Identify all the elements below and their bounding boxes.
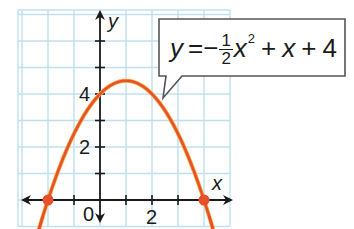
eq-x-linear: x [282, 33, 295, 64]
eq-x: x [234, 33, 247, 64]
eq-equals-minus: =− [188, 33, 218, 64]
intercept-point [199, 195, 210, 206]
intercept-point [43, 195, 54, 206]
eq-y: y [170, 33, 183, 64]
y-axis-label: y [106, 10, 119, 32]
eq-fraction: 1 2 [219, 32, 232, 67]
tick-label-y-4: 4 [79, 83, 90, 105]
equation-label: y =− 1 2 x 2 + x + 4 [170, 26, 337, 70]
tick-label-x-0: 0 [83, 203, 94, 225]
eq-exponent: 2 [248, 31, 255, 46]
tick-label-y-2: 2 [79, 136, 90, 158]
tick-label-x-2: 2 [146, 206, 157, 228]
eq-plus-1: + [261, 33, 276, 64]
eq-plus-2: + [301, 33, 316, 64]
eq-denominator: 2 [221, 50, 230, 67]
eq-constant: 4 [322, 33, 336, 64]
eq-numerator: 1 [219, 32, 232, 50]
x-axis-label: x [211, 172, 223, 194]
